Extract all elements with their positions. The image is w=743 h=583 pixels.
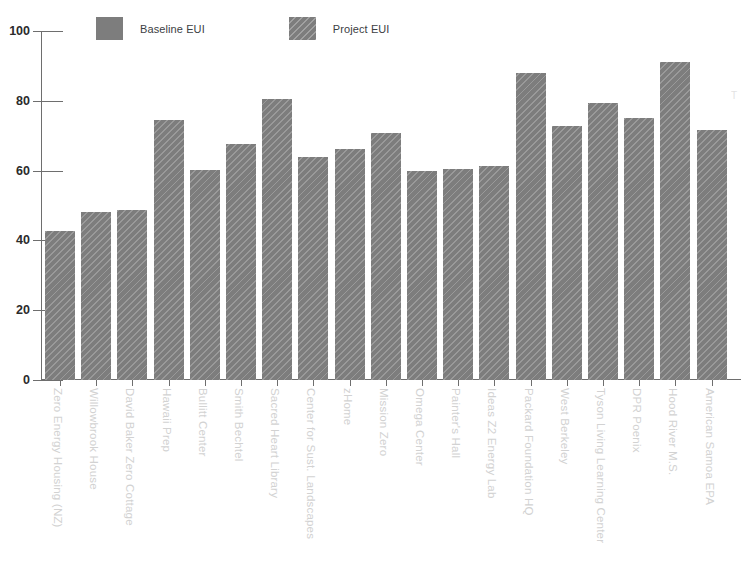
bar[interactable] [262, 99, 292, 380]
x-axis-tick [277, 380, 278, 386]
bar[interactable] [45, 231, 75, 380]
bar[interactable] [190, 170, 220, 380]
x-axis-tick [567, 380, 568, 386]
legend-entry-project[interactable]: Project EUI [289, 17, 390, 40]
bar[interactable] [516, 73, 546, 380]
x-axis-tick [675, 380, 676, 386]
x-axis-tick [712, 380, 713, 386]
y-axis-tick-label: 20 [16, 303, 30, 317]
x-axis-tick [132, 380, 133, 386]
x-axis-tick [531, 380, 532, 386]
plot-area: 020406080100 [41, 31, 741, 380]
x-axis-tick [313, 380, 314, 386]
bar-chart: Baseline EUI Project EUI 020406080100 Ze… [0, 0, 743, 583]
bar[interactable] [552, 126, 582, 380]
bar[interactable] [117, 210, 147, 380]
bar[interactable] [697, 130, 727, 380]
x-axis-category-label: Hood River M.S. [667, 388, 679, 475]
x-axis-category-label: Tyson Living Learning Center [595, 388, 607, 543]
bar[interactable] [407, 171, 437, 380]
x-axis-category-label: Mission Zero [378, 388, 390, 456]
x-axis-category-label: zHome [342, 388, 354, 425]
y-axis-tick-label: 0 [23, 373, 30, 387]
legend-swatch-baseline-icon [96, 17, 123, 40]
bar[interactable] [371, 133, 401, 380]
chart-legend: Baseline EUI Project EUI [96, 17, 390, 40]
x-axis-category-label: Bullitt Center [197, 388, 209, 457]
x-axis-category-label: American Samoa EPA [704, 388, 716, 505]
bar[interactable] [298, 157, 328, 380]
x-axis-category-labels: Zero Energy Housing (NZ)Willowbrook Hous… [41, 388, 741, 583]
legend-label-baseline: Baseline EUI [140, 23, 205, 35]
legend-swatch-project-icon [289, 17, 316, 40]
x-axis-tick [96, 380, 97, 386]
bar[interactable] [624, 118, 654, 380]
x-axis-tick [386, 380, 387, 386]
bar[interactable] [660, 62, 690, 380]
x-axis-tick [422, 380, 423, 386]
bar[interactable] [226, 144, 256, 380]
x-axis-tick [603, 380, 604, 386]
y-axis-tick-label: 80 [16, 94, 30, 108]
x-axis-category-label: Hawaii Prep [161, 388, 173, 452]
x-axis-category-label: David Baker Zero Cottage [124, 388, 136, 526]
x-axis-tick [205, 380, 206, 386]
x-axis-category-label: Packard Foundation HQ [523, 388, 535, 516]
x-axis-category-label: Omega Center [414, 388, 426, 466]
clipped-edge-text: T [731, 88, 743, 103]
x-axis-category-label: Center for Sust. Landscapes [305, 388, 317, 539]
bar[interactable] [335, 149, 365, 380]
x-axis-category-label: Zero Energy Housing (NZ) [52, 388, 64, 528]
bar[interactable] [588, 103, 618, 380]
bar[interactable] [154, 120, 184, 380]
x-axis-category-label: DPR Poenix [631, 388, 643, 453]
x-axis-category-label: Sacred Heart Library [269, 388, 281, 498]
bar[interactable] [81, 212, 111, 380]
x-axis-tick [60, 380, 61, 386]
x-axis-tick [458, 380, 459, 386]
x-axis-tick [169, 380, 170, 386]
legend-label-project: Project EUI [333, 23, 390, 35]
x-axis-tick [350, 380, 351, 386]
legend-entry-baseline[interactable]: Baseline EUI [96, 17, 205, 40]
x-axis-category-label: Ideas Z2 Energy Lab [486, 388, 498, 499]
bar[interactable] [479, 166, 509, 380]
y-axis-tick [33, 380, 63, 381]
y-axis-tick-label: 100 [9, 24, 30, 38]
x-axis-category-label: Willowbrook House [88, 388, 100, 490]
x-axis-category-label: West Berkeley [559, 388, 571, 465]
y-axis-tick-label: 60 [16, 164, 30, 178]
bar[interactable] [443, 169, 473, 380]
x-axis-tick [639, 380, 640, 386]
y-axis-tick-label: 40 [16, 233, 30, 247]
bar-series [41, 31, 741, 380]
x-axis-tick [494, 380, 495, 386]
x-axis-category-label: Painter's Hall [450, 388, 462, 458]
x-axis-tick [241, 380, 242, 386]
x-axis-category-label: Smith Bechtel [233, 388, 245, 462]
